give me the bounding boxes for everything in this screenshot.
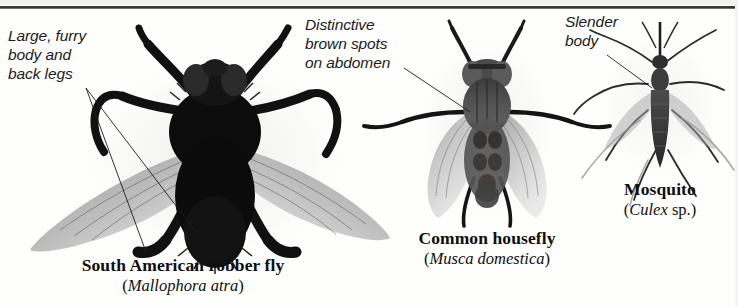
scientific-name-housefly-text: Musca domestica xyxy=(429,249,544,268)
scientific-name-housefly: (Musca domestica) xyxy=(381,249,593,269)
callout-robber-fly: Large, furry body and back legs xyxy=(8,26,86,83)
callout-mosquito: Slender body xyxy=(565,12,618,50)
scientific-name-robber-fly: (Mallophora atra) xyxy=(48,276,318,296)
caption-mosquito: Mosquito (Culex sp.) xyxy=(586,179,734,220)
common-name-mosquito: Mosquito xyxy=(586,179,734,200)
common-name-housefly: Common housefly xyxy=(381,228,593,249)
scientific-name-mosquito: (Culex sp.) xyxy=(586,200,734,220)
caption-housefly: Common housefly (Musca domestica) xyxy=(381,228,593,269)
common-name-robber-fly: South American robber fly xyxy=(48,255,318,276)
scientific-name-mosquito-qualifier: sp. xyxy=(668,200,691,219)
scientific-name-mosquito-text: Culex xyxy=(629,200,668,219)
housefly-body xyxy=(462,59,512,208)
callout-housefly: Distinctive brown spots on abdomen xyxy=(305,15,390,72)
housefly-image xyxy=(364,21,610,228)
scientific-name-robber-fly-text: Mallophora atra xyxy=(128,276,238,295)
insect-comparison-figure: Large, furry body and back legs Distinct… xyxy=(0,0,738,306)
caption-robber-fly: South American robber fly (Mallophora at… xyxy=(48,255,318,296)
